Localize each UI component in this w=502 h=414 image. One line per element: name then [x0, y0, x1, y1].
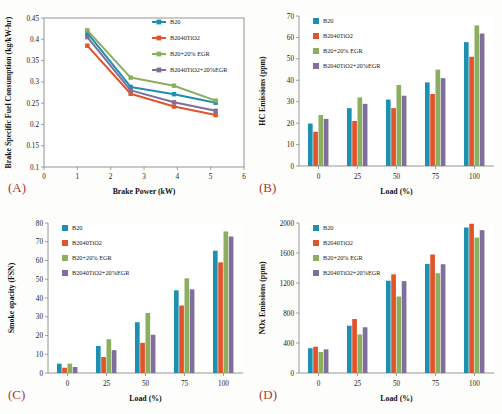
- legend-label: B2040TiO2+20%EGR: [323, 62, 381, 69]
- bar: [402, 96, 407, 166]
- y-tick-label: 20: [36, 332, 44, 340]
- data-point-marker: [172, 83, 176, 87]
- y-tick-label: 0.1: [30, 164, 39, 172]
- x-tick-label: 0: [66, 380, 70, 388]
- bar: [363, 104, 368, 166]
- x-tick-label: 75: [432, 380, 440, 388]
- y-tick-label: 20: [287, 120, 295, 128]
- bar: [224, 231, 229, 373]
- y-axis-title: HC Emissions (ppm): [258, 56, 267, 126]
- legend-label: B2040TiO2: [72, 239, 102, 246]
- x-tick-label: 5: [209, 173, 213, 181]
- data-point-marker: [128, 88, 132, 92]
- legend-marker-swatch: [157, 20, 162, 25]
- legend-label: B20: [323, 224, 334, 231]
- legend-swatch: [62, 240, 68, 246]
- bar: [386, 281, 391, 373]
- panel-letter-a: (A): [8, 180, 26, 196]
- bar: [363, 327, 368, 373]
- y-tick-label: 1600: [280, 250, 295, 258]
- data-point-marker: [85, 35, 89, 39]
- x-axis-title: Load (%): [380, 187, 413, 196]
- chart-panel-b: 0102030405060700255075100Load (%)HC Emis…: [251, 0, 502, 207]
- y-tick-label: 40: [36, 295, 44, 303]
- bar: [101, 357, 106, 373]
- bar: [480, 230, 485, 373]
- bar: [480, 34, 485, 166]
- bar: [386, 100, 391, 166]
- bar: [397, 297, 402, 374]
- legend-swatch: [313, 255, 319, 261]
- y-tick-label: 40: [287, 77, 295, 85]
- legend-swatch: [313, 48, 319, 54]
- bar: [185, 278, 190, 373]
- legend-label: B2040TiO2+20%EGR: [72, 269, 130, 276]
- x-tick-label: 6: [242, 173, 246, 181]
- x-tick-label: 3: [142, 173, 146, 181]
- legend-swatch: [62, 270, 68, 276]
- x-tick-label: 25: [103, 380, 111, 388]
- y-axis-title: NOx Emissions (ppm): [258, 261, 267, 335]
- legend-label: B20: [72, 224, 83, 231]
- x-tick-label: 50: [393, 380, 401, 388]
- data-point-marker: [85, 28, 89, 32]
- x-tick-label: 25: [354, 380, 362, 388]
- chart-b-svg: 0102030405060700255075100Load (%)HC Emis…: [251, 0, 502, 207]
- y-tick-label: 0: [290, 370, 294, 378]
- y-tick-label: 70: [36, 238, 44, 246]
- legend-label: B20: [170, 18, 181, 25]
- x-axis-title: Brake Power (kW): [113, 187, 176, 196]
- bar: [218, 262, 223, 373]
- y-tick-label: 0.3: [30, 78, 39, 86]
- bar: [140, 343, 145, 373]
- figure-container: 0.10.150.20.250.30.350.40.450123456Brake…: [0, 0, 502, 414]
- panel-letter-b: (B): [259, 180, 276, 196]
- bar: [352, 121, 357, 166]
- legend-swatch: [62, 255, 68, 261]
- bar: [324, 119, 329, 166]
- y-tick-label: 0.35: [26, 57, 39, 65]
- bar: [146, 313, 151, 373]
- x-tick-label: 100: [469, 380, 480, 388]
- bar: [319, 352, 324, 373]
- bar: [179, 306, 184, 374]
- bar: [441, 78, 446, 166]
- legend-label: B2040TiO2+20%EGR: [170, 66, 228, 73]
- bar: [464, 42, 469, 166]
- y-tick-label: 30: [36, 313, 44, 321]
- y-tick-label: 80: [36, 220, 44, 228]
- plot-area: [44, 18, 244, 167]
- bar: [469, 57, 474, 166]
- y-tick-label: 60: [287, 34, 295, 42]
- chart-a-svg: 0.10.150.20.250.30.350.40.450123456Brake…: [0, 0, 251, 207]
- y-tick-label: 2000: [280, 220, 295, 228]
- bar: [213, 251, 218, 373]
- bar: [347, 108, 352, 166]
- y-axis-title: Smoke opacity (FSN): [7, 262, 16, 333]
- x-axis-title: Load (%): [129, 394, 162, 403]
- bar: [107, 339, 112, 373]
- x-tick-label: 1: [76, 173, 80, 181]
- legend-swatch: [313, 240, 319, 246]
- legend-label: B20+20% EGR: [323, 254, 364, 261]
- legend-swatch: [313, 18, 319, 24]
- bar: [464, 228, 469, 374]
- bar: [469, 224, 474, 373]
- y-tick-label: 30: [287, 98, 295, 106]
- bar: [174, 290, 179, 373]
- bar: [430, 255, 435, 374]
- bar: [135, 322, 140, 373]
- bar: [68, 364, 73, 373]
- y-tick-label: 60: [36, 257, 44, 265]
- legend-label: B2040TiO2: [170, 34, 200, 41]
- legend-label: B2040TiO2: [323, 32, 353, 39]
- bar: [436, 70, 441, 166]
- bar: [425, 264, 430, 373]
- x-tick-label: 75: [432, 173, 440, 181]
- legend-swatch: [313, 270, 319, 276]
- bar: [112, 350, 117, 373]
- y-tick-label: 10: [36, 351, 44, 359]
- bar: [441, 264, 446, 373]
- y-tick-label: 0.4: [30, 36, 39, 44]
- bar: [402, 281, 407, 373]
